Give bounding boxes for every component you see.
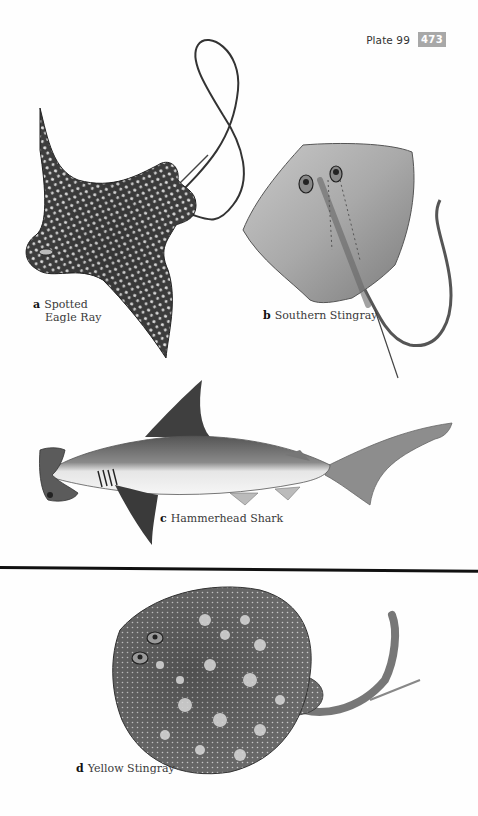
caption-text: Southern Stingray [275,309,378,322]
section-divider [0,566,478,573]
yellow-stingray-illustration [100,580,430,780]
plate-label: Plate 99 [366,34,410,46]
caption-southern-stingray: bSouthern Stingray [263,309,377,322]
southern-stingray-illustration [240,140,460,380]
caption-letter: d [76,762,84,775]
caption-yellow-stingray: dYellow Stingray [76,762,175,775]
caption-text: Yellow Stingray [88,762,175,775]
caption-letter: b [263,309,271,322]
caption-letter: c [160,512,167,525]
caption-text: Hammerhead Shark [171,512,284,525]
caption-letter: a [33,298,40,311]
page-header: Plate 99 473 [366,32,446,47]
page-number-badge: 473 [418,32,446,47]
caption-spotted-eagle-ray: aSpotted Eagle Ray [33,298,101,324]
caption-text-line2: Eagle Ray [45,311,101,324]
book-page: Plate 99 473 aSpotted Eagle Ray [0,0,478,816]
caption-hammerhead-shark: cHammerhead Shark [160,512,283,525]
caption-text: Spotted [44,298,88,311]
